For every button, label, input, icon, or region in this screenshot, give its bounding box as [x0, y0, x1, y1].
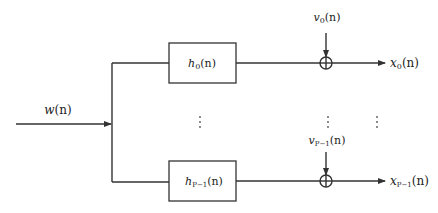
filter-label-h0: h0(n)	[188, 57, 216, 71]
ellipsis-outputs	[376, 116, 378, 128]
adder-0	[320, 57, 332, 69]
branch-p-minus-1: hP−1(n) vP−1(n) xP−1(n)	[169, 134, 429, 201]
output-label-x0: x0(n)	[390, 56, 419, 71]
input-signal: w(n)	[16, 103, 111, 124]
ellipsis-filters	[199, 116, 201, 128]
ellipsis-group	[199, 116, 378, 128]
block-diagram: w(n) h0(n) v0(n) x0(n)	[0, 0, 438, 213]
adder-p-1	[320, 175, 332, 187]
input-label: w(n)	[44, 103, 71, 117]
noise-label-v0: v0(n)	[314, 11, 341, 25]
noise-label-vP-1: vP−1(n)	[309, 134, 346, 148]
split-bus	[112, 63, 169, 182]
branch-0: h0(n) v0(n) x0(n)	[169, 11, 419, 83]
ellipsis-noise	[327, 116, 329, 128]
output-label-xP-1: xP−1(n)	[390, 174, 429, 189]
